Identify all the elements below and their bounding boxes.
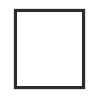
canvas bbox=[0, 0, 93, 97]
empty-square-outline[interactable] bbox=[14, 9, 85, 89]
square-interior bbox=[17, 12, 82, 86]
